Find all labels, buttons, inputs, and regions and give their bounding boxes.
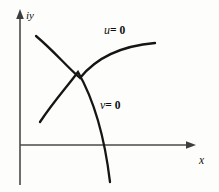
curve-label-v-relation: = 0 bbox=[105, 99, 120, 111]
curve-v-equals-zero bbox=[40, 72, 110, 182]
y-axis-label: iy bbox=[26, 10, 34, 21]
x-axis-arrowhead-icon bbox=[186, 141, 196, 148]
figure-container: u= 0 v= 0 iy x bbox=[0, 0, 219, 192]
curve-label-v: v= 0 bbox=[100, 99, 121, 112]
curve-label-u: u= 0 bbox=[104, 24, 125, 37]
curve-label-u-relation: = 0 bbox=[110, 24, 125, 36]
curve-u-equals-zero bbox=[36, 36, 155, 78]
x-axis-label: x bbox=[199, 155, 204, 167]
y-axis-arrowhead-icon bbox=[16, 9, 24, 19]
